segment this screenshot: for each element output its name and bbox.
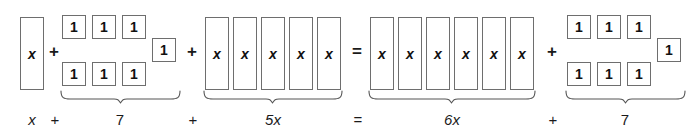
label-plus-1: + [46, 112, 64, 127]
label-term-7-left: 7 [110, 112, 130, 127]
tile-unit-right-7: 1 [657, 38, 681, 62]
tile-x-group6-1: x [370, 17, 394, 90]
label-equals: = [349, 112, 367, 127]
tile-unit-left-4: 1 [62, 62, 86, 86]
tile-unit-right-5: 1 [597, 62, 621, 86]
operator-plus-1: + [45, 43, 63, 60]
tile-x-group5-4: x [289, 17, 313, 90]
label-term-5x: 5x [260, 112, 286, 127]
operator-plus-2: + [183, 43, 201, 60]
tile-unit-right-1: 1 [567, 15, 591, 39]
tile-unit-left-3: 1 [122, 15, 146, 39]
tile-x-group6-6: x [510, 17, 534, 90]
tile-x-group6-3: x [426, 17, 450, 90]
tile-x-group5-5: x [317, 17, 341, 90]
label-term-7-right: 7 [615, 112, 635, 127]
label-plus-3: + [544, 112, 562, 127]
tile-x-group6-2: x [398, 17, 422, 90]
tile-x-group5-1: x [205, 17, 229, 90]
tile-unit-right-4: 1 [567, 62, 591, 86]
tile-x-group6-4: x [454, 17, 478, 90]
tile-unit-left-5: 1 [92, 62, 116, 86]
tile-x-left-1: x [20, 17, 44, 90]
tile-unit-left-7: 1 [152, 38, 176, 62]
operator-plus-3: + [543, 43, 561, 60]
brace-right-constant-group [565, 90, 686, 104]
label-term-x: x [22, 112, 42, 127]
tile-unit-right-6: 1 [627, 62, 651, 86]
label-term-6x: 6x [439, 112, 465, 127]
tile-unit-right-3: 1 [627, 15, 651, 39]
tile-unit-left-1: 1 [62, 15, 86, 39]
tile-unit-right-2: 1 [597, 15, 621, 39]
label-plus-2: + [184, 112, 202, 127]
brace-left-constant-group [60, 90, 181, 104]
tile-unit-left-2: 1 [92, 15, 116, 39]
tile-x-group5-2: x [233, 17, 257, 90]
tile-unit-left-6: 1 [122, 62, 146, 86]
operator-equals: = [348, 43, 366, 60]
algebra-tiles-diagram: x + 1 1 1 1 1 1 1 + x x x x x = x x x x … [0, 0, 689, 134]
tile-x-group6-5: x [482, 17, 506, 90]
brace-six-x-group [368, 90, 536, 104]
brace-five-x-group [203, 90, 343, 104]
tile-x-group5-3: x [261, 17, 285, 90]
